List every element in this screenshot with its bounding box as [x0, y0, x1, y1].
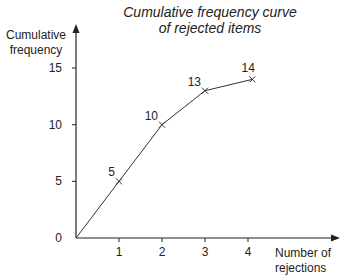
y-axis-arrow-icon: [73, 24, 80, 33]
x-tick-label: 1: [116, 245, 123, 259]
x-axis-arrow-icon: [331, 235, 340, 242]
point-label: 5: [108, 165, 115, 179]
axis-ticks: 1234051015: [49, 61, 252, 259]
point-label: 10: [145, 109, 159, 123]
y-tick-label: 0: [55, 231, 62, 245]
x-tick-label: 3: [202, 245, 209, 259]
x-tick-label: 2: [159, 245, 166, 259]
point-label: 13: [188, 75, 202, 89]
cumulative-frequency-line: [76, 79, 252, 238]
x-tick-label: 4: [245, 245, 252, 259]
point-label: 14: [242, 61, 256, 75]
x-marker-icon: [159, 122, 165, 128]
plot-area: 1234051015 5101314: [0, 0, 348, 280]
y-tick-label: 15: [49, 61, 63, 75]
data-series: 5101314: [76, 61, 255, 238]
y-tick-label: 10: [49, 118, 63, 132]
x-marker-icon: [116, 178, 122, 184]
y-tick-label: 5: [55, 174, 62, 188]
